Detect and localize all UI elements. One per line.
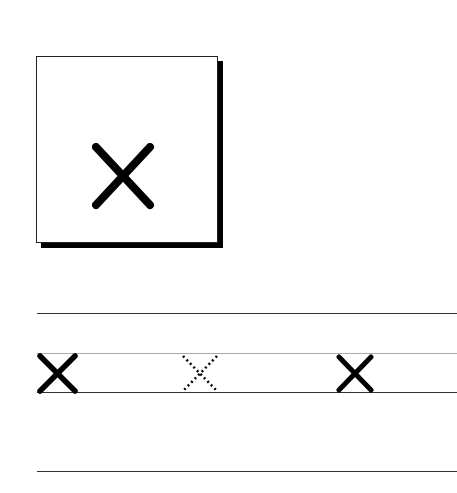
- writing-line: [37, 471, 457, 472]
- letter-flashcard: [36, 56, 218, 243]
- solid-letter-x-icon: [37, 353, 79, 394]
- tracing-top-line: [37, 313, 457, 314]
- tracing-base-line: [37, 392, 457, 393]
- solid-letter-x-icon: [336, 354, 374, 393]
- tracing-mid-line: [37, 353, 457, 354]
- dotted-letter-x-icon[interactable]: [181, 354, 219, 393]
- letter-x-icon: [92, 143, 156, 211]
